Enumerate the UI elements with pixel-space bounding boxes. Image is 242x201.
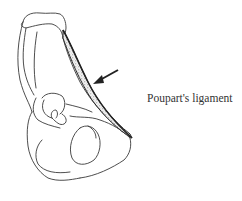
ilium-outline (18, 13, 66, 112)
pointer-arrow-icon (93, 70, 118, 84)
ligament-label: Poupart's ligament (147, 92, 232, 104)
acetabulum-outline (33, 93, 66, 128)
ischium-pubis-outline (27, 104, 131, 180)
obturator-foramen-outline (70, 126, 100, 164)
poupart-ligament (63, 30, 132, 138)
